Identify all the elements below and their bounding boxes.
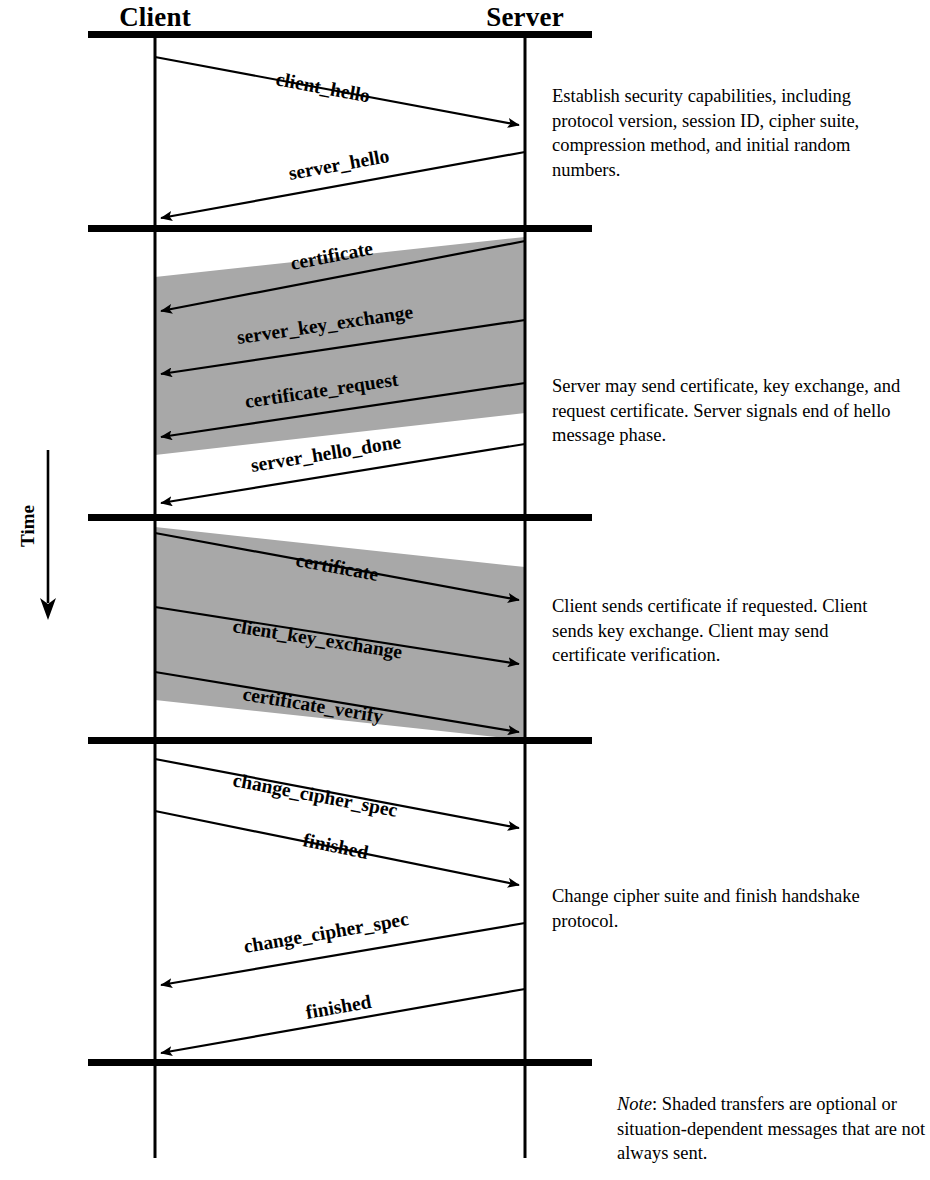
phase-divider-3 <box>88 737 592 744</box>
time-axis-label: Time <box>17 496 39 556</box>
phase-divider-2 <box>88 514 592 521</box>
label-change_cipher_spec-client: change_cipher_spec <box>231 769 399 821</box>
label-client_hello: client_hello <box>274 68 372 106</box>
phase-4-description: Change cipher suite and finish handshake… <box>552 884 902 933</box>
phase-divider-1 <box>88 225 592 232</box>
phase-3-description: Client sends certificate if requested. C… <box>552 594 902 668</box>
label-change_cipher_spec-server: change_cipher_spec <box>242 908 410 957</box>
label-finished-client: finished <box>301 829 370 863</box>
client-column-title: Client <box>119 2 191 33</box>
shading-note-text: : Shaded transfers are optional or situa… <box>617 1094 925 1163</box>
shading-note: Note: Shaded transfers are optional or s… <box>617 1092 930 1166</box>
time-axis-arrow <box>40 450 56 620</box>
phase-1-description: Establish security capabilities, includi… <box>552 84 902 182</box>
shading-note-lead: Note <box>617 1094 652 1114</box>
shade-band-phase-2 <box>155 237 525 455</box>
server-column-title: Server <box>486 2 564 33</box>
phase-divider-bottom <box>88 1059 592 1066</box>
phase-2-description: Server may send certificate, key exchang… <box>552 374 902 448</box>
